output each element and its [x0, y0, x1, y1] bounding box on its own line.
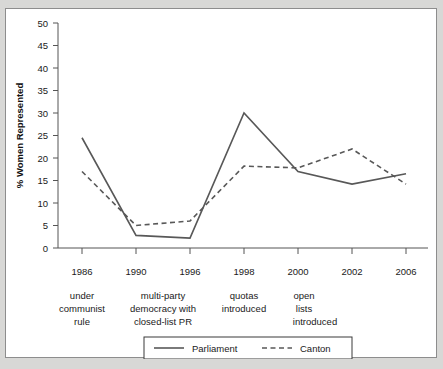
- annotation-communist-line-2: communist: [59, 303, 105, 314]
- legend-label-parliament[interactable]: Parliament: [192, 343, 238, 354]
- y-tick-label-50: 50: [37, 18, 48, 29]
- y-tick-label-5: 5: [43, 220, 48, 231]
- x-tick-label-2000: 2000: [287, 266, 308, 277]
- annotation-openlists-line-1: open: [293, 290, 314, 301]
- annotation-openlists-line-2: lists: [296, 303, 313, 314]
- y-tick-label-35: 35: [37, 85, 48, 96]
- chart-canvas: 0 5 10 15 20 25 30 35 40 45 50 % Women R…: [6, 9, 438, 359]
- y-tick-label-20: 20: [37, 153, 48, 164]
- y-axis-ticks: [53, 23, 58, 248]
- x-tick-label-1990: 1990: [125, 266, 146, 277]
- y-tick-label-30: 30: [37, 108, 48, 119]
- x-tick-label-2006: 2006: [395, 266, 416, 277]
- x-tick-label-1996: 1996: [179, 266, 200, 277]
- chart-legend: Parliament Canton: [144, 337, 352, 359]
- annotation-communist-rule: under communist rule: [59, 290, 105, 327]
- series-line-canton: [82, 149, 406, 226]
- y-tick-label-0: 0: [43, 243, 48, 254]
- annotation-communist-line-1: under: [70, 290, 94, 301]
- annotation-openlists-line-3: introduced: [293, 316, 337, 327]
- x-tick-label-1986: 1986: [71, 266, 92, 277]
- y-tick-label-40: 40: [37, 63, 48, 74]
- line-chart: 0 5 10 15 20 25 30 35 40 45 50 % Women R…: [6, 9, 438, 359]
- annotation-multiparty-democracy: multi-party democracy with closed-list P…: [130, 290, 196, 327]
- figure-container: 0 5 10 15 20 25 30 35 40 45 50 % Women R…: [5, 8, 437, 358]
- y-tick-label-15: 15: [37, 175, 48, 186]
- annotation-communist-line-3: rule: [74, 316, 90, 327]
- annotation-multiparty-line-1: multi-party: [141, 290, 186, 301]
- x-tick-label-2002: 2002: [341, 266, 362, 277]
- x-axis-tick-labels: 1986 1990 1996 1998 2000 2002 2006: [71, 266, 416, 277]
- annotation-quotas-introduced: quotas introduced: [222, 290, 266, 314]
- x-tick-label-1998: 1998: [233, 266, 254, 277]
- annotation-multiparty-line-2: democracy with: [130, 303, 196, 314]
- annotation-multiparty-line-3: closed-list PR: [134, 316, 192, 327]
- x-axis-ticks: [82, 248, 406, 254]
- y-tick-label-10: 10: [37, 198, 48, 209]
- annotation-quotas-line-1: quotas: [230, 290, 259, 301]
- y-axis-title: % Women Represented: [14, 83, 25, 189]
- annotation-open-lists-introduced: open lists introduced: [293, 290, 337, 327]
- y-axis-tick-labels: 0 5 10 15 20 25 30 35 40 45 50: [37, 18, 48, 254]
- legend-label-canton[interactable]: Canton: [300, 343, 331, 354]
- annotation-quotas-line-2: introduced: [222, 303, 266, 314]
- y-tick-label-25: 25: [37, 130, 48, 141]
- y-tick-label-45: 45: [37, 40, 48, 51]
